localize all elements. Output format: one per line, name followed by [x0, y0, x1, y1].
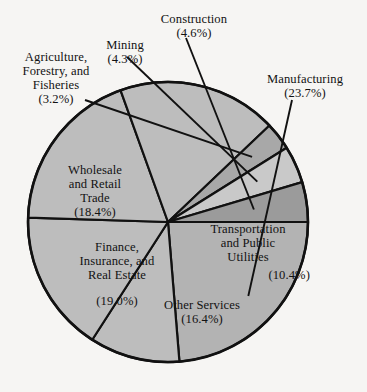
slice-label-agriculture-line2: Forestry, and	[23, 64, 90, 78]
slice-label-finance-line1: Finance,	[95, 240, 139, 254]
slice-label-transportation-public-utilities: Transportation and Public Utilities (10.…	[186, 222, 310, 282]
slice-label-transport-line1: Transportation	[210, 222, 285, 236]
slice-label-construction: Construction (4.6%)	[136, 12, 252, 40]
slice-label-transport-line2: and Public	[221, 236, 276, 250]
slice-label-manufacturing-name: Manufacturing	[267, 72, 343, 86]
slice-label-manufacturing: Manufacturing (23.7%)	[248, 72, 362, 100]
slice-label-finance-line2: Insurance, and	[80, 254, 155, 268]
slice-label-transport-line3: Utilities	[227, 250, 268, 264]
slice-label-wholesale-line3: Trade	[80, 191, 109, 205]
slice-label-construction-name: Construction	[161, 12, 227, 26]
slice-label-mining-name: Mining	[106, 38, 144, 52]
slice-label-agriculture-percent: (3.2%)	[4, 92, 108, 106]
slice-label-wholesale-percent: (18.4%)	[40, 205, 150, 219]
slice-label-agriculture: Agriculture, Forestry, and Fisheries (3.…	[4, 50, 108, 106]
slice-label-manufacturing-percent: (23.7%)	[248, 86, 362, 100]
slice-label-wholesale-line1: Wholesale	[68, 163, 122, 177]
slice-label-wholesale-line2: and Retail	[69, 177, 121, 191]
pie-chart-figure: Construction (4.6%) Mining (4.3%) Agricu…	[0, 0, 367, 392]
slice-label-other-name: Other Services	[164, 298, 240, 312]
slice-label-finance-line3: Real Estate	[88, 268, 146, 282]
slice-label-agriculture-line3: Fisheries	[33, 78, 79, 92]
slice-label-transport-percent: (10.4%)	[186, 268, 310, 282]
slice-label-wholesale-retail-trade: Wholesale and Retail Trade (18.4%)	[40, 163, 150, 219]
slice-label-agriculture-line1: Agriculture,	[25, 50, 87, 64]
slice-label-other-services: Other Services (16.4%)	[148, 298, 256, 326]
slice-label-other-percent: (16.4%)	[148, 312, 256, 326]
